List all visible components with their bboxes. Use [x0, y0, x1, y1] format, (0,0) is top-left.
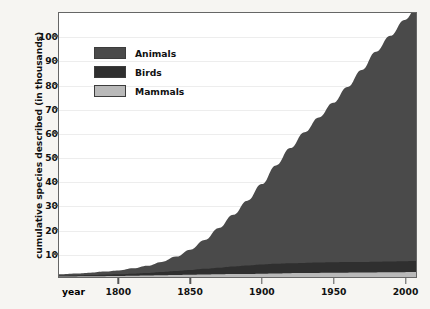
x-axis: 18001850190019502000: [58, 278, 417, 309]
y-axis-tick-marks: [0, 12, 58, 278]
legend: AnimalsBirdsMammals: [94, 44, 214, 101]
species-area-chart: cumulative species described (in thousan…: [0, 0, 430, 309]
legend-label: Birds: [135, 67, 162, 78]
x-tick-mark: [333, 278, 334, 284]
legend-item-mammals[interactable]: Mammals: [94, 82, 214, 100]
legend-item-birds[interactable]: Birds: [94, 63, 214, 81]
x-tick-mark: [261, 278, 262, 284]
x-axis-label: year: [62, 286, 85, 297]
legend-label: Animals: [135, 48, 176, 59]
x-tick-label: 1850: [160, 286, 220, 297]
x-tick-mark: [118, 278, 119, 284]
legend-label: Mammals: [135, 86, 184, 97]
x-tick-label: 1900: [232, 286, 292, 297]
legend-swatch-mammals: [94, 85, 126, 97]
x-tick-mark: [189, 278, 190, 284]
x-tick-mark: [405, 278, 406, 284]
x-tick-label: 1800: [88, 286, 148, 297]
legend-swatch-birds: [94, 66, 126, 78]
x-tick-label: 1950: [304, 286, 364, 297]
legend-item-animals[interactable]: Animals: [94, 44, 214, 62]
x-tick-label: 2000: [376, 286, 430, 297]
legend-swatch-animals: [94, 47, 126, 59]
